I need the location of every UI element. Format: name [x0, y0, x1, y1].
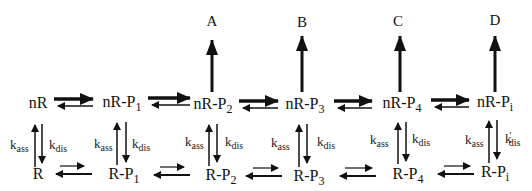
product-label-d: D — [490, 13, 501, 28]
species-R-P3: R-P3 — [294, 168, 325, 184]
product-label-a: A — [207, 14, 218, 29]
rate-kdis-prime-i: k′dis — [505, 132, 520, 145]
rate-kdis-0: kdis — [49, 138, 67, 151]
product-label-b: B — [297, 15, 307, 30]
product-arrows — [212, 36, 495, 92]
rate-kdis-4: kdis — [412, 132, 430, 145]
species-nR-P3: nR-P3 — [286, 96, 325, 112]
species-R: R — [33, 166, 44, 182]
species-nR: nR — [29, 95, 48, 111]
rate-kdis-3: kdis — [317, 135, 335, 148]
rate-kass-3: kass — [271, 136, 290, 149]
rate-kass-2: kass — [185, 135, 204, 148]
rate-kdis-1: kdis — [132, 137, 150, 150]
species-R-P2: R-P2 — [206, 167, 237, 183]
species-R-Pi: R-Pi — [481, 164, 509, 180]
product-label-c: C — [393, 14, 403, 29]
rate-kass-4: kass — [370, 133, 389, 146]
rate-kdis-2: kdis — [225, 135, 243, 148]
reaction-arrows — [0, 0, 532, 191]
species-nR-P2: nR-P2 — [194, 96, 233, 112]
rate-kass-1: kass — [94, 137, 113, 150]
species-nR-P1: nR-P1 — [103, 94, 142, 110]
species-nR-P4: nR-P4 — [383, 95, 422, 111]
species-nR-Pi: nR-Pi — [477, 94, 513, 110]
rate-kass-i: kass — [465, 133, 484, 146]
rate-kass-0: kass — [10, 138, 29, 151]
species-R-P1: R-P1 — [109, 166, 140, 182]
species-R-P4: R-P4 — [393, 166, 424, 182]
